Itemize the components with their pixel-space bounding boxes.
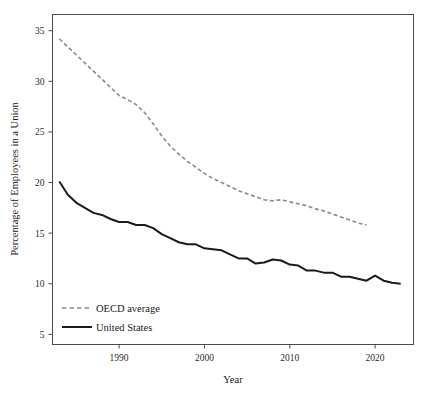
y-axis-title: Percentage of Employees in a Union xyxy=(9,101,20,255)
y-axis-ticks: 5101520253035 xyxy=(35,26,53,340)
union-membership-line-chart: 5101520253035 1990200020102020 Year Perc… xyxy=(0,0,430,393)
y-tick-label: 5 xyxy=(40,330,45,340)
chart-legend: OECD average United States xyxy=(62,303,160,333)
y-tick-label: 10 xyxy=(35,279,45,289)
x-axis-title: Year xyxy=(223,374,243,385)
y-tick-label: 35 xyxy=(35,26,45,36)
data-series-group xyxy=(59,39,400,284)
series-line-united-states xyxy=(59,182,400,284)
y-tick-label: 20 xyxy=(35,178,45,188)
legend-item-oecd-average: OECD average xyxy=(62,303,160,314)
x-tick-label: 2020 xyxy=(366,353,385,363)
x-tick-label: 2000 xyxy=(195,353,214,363)
y-tick-label: 30 xyxy=(35,77,45,87)
legend-item-united-states: United States xyxy=(62,322,152,333)
x-tick-label: 2010 xyxy=(280,353,299,363)
legend-label-united-states: United States xyxy=(96,322,152,333)
y-tick-label: 15 xyxy=(35,229,45,239)
x-tick-label: 1990 xyxy=(110,353,129,363)
chart-canvas: 5101520253035 1990200020102020 Year Perc… xyxy=(0,0,430,393)
x-axis-ticks: 1990200020102020 xyxy=(110,345,385,363)
legend-label-oecd-average: OECD average xyxy=(96,303,160,314)
plot-area-border xyxy=(53,15,414,345)
plot-frame xyxy=(53,15,414,345)
y-tick-label: 25 xyxy=(35,127,45,137)
series-line-oecd-average xyxy=(59,39,366,225)
